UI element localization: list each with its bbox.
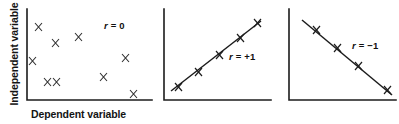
line-point bbox=[254, 19, 261, 27]
panel1-r-annotation: r = 0 bbox=[104, 20, 125, 31]
scatter-point bbox=[29, 57, 36, 65]
panel-line-rplus1: r = +1 bbox=[164, 9, 271, 100]
y-axis-title: Independent variable bbox=[8, 2, 20, 106]
correlation-panels-svg: r = 0 bbox=[0, 0, 399, 124]
scatter-point bbox=[35, 23, 42, 31]
scatter-point bbox=[44, 78, 51, 86]
panel2-r-relation: = bbox=[233, 51, 244, 62]
scatter-point bbox=[122, 54, 129, 62]
panel1-axes bbox=[27, 9, 152, 100]
scatter-point bbox=[52, 39, 59, 47]
panel-scatter-r0: r = 0 bbox=[27, 9, 152, 100]
panel1-data-points bbox=[29, 23, 137, 98]
scatter-point bbox=[100, 73, 107, 81]
panel-line-rminus1: r = −1 bbox=[289, 9, 396, 100]
scatter-point bbox=[53, 78, 60, 86]
panel3-r-relation: = bbox=[356, 40, 367, 51]
x-axis-title: Dependent variable bbox=[31, 108, 126, 120]
panel3-r-value: −1 bbox=[367, 40, 379, 51]
scatter-point bbox=[75, 33, 82, 41]
panel2-r-annotation: r = +1 bbox=[229, 51, 256, 62]
scatter-point bbox=[130, 90, 137, 98]
correlation-figure: r = 0 bbox=[0, 0, 399, 124]
panel3-r-annotation: r = −1 bbox=[352, 40, 379, 51]
panel1-r-relation: = bbox=[108, 20, 119, 31]
panel2-r-value: +1 bbox=[244, 51, 256, 62]
panel1-r-value: 0 bbox=[119, 20, 124, 31]
